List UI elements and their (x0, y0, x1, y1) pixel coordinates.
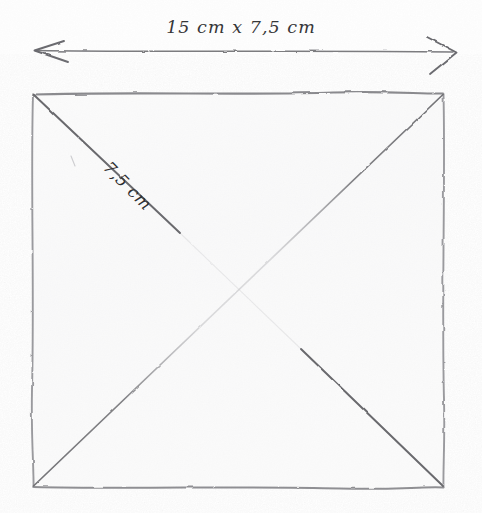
sketch-canvas (0, 0, 482, 513)
square-edge-right (443, 94, 444, 487)
sketch-page: 15 cm x 7,5 cm 7,5 cm (0, 0, 482, 513)
dimension-line (37, 51, 453, 53)
